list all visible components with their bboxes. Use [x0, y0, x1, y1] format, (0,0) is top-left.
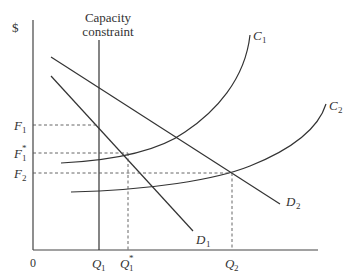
- svg-text:1: 1: [262, 35, 267, 45]
- svg-text:1: 1: [22, 125, 27, 135]
- svg-text:*: *: [22, 143, 27, 153]
- svg-text:1: 1: [129, 263, 134, 273]
- demand-curve-d1: [51, 76, 193, 231]
- x-tick-q1: Q 1: [92, 256, 106, 273]
- svg-text:*: *: [129, 253, 134, 263]
- curve-label-d2: D 2: [285, 194, 301, 211]
- y-tick-f2: F 2: [13, 166, 27, 183]
- svg-text:D: D: [285, 194, 296, 209]
- svg-text:2: 2: [338, 105, 343, 115]
- curve-label-c2: C 2: [329, 98, 343, 115]
- svg-text:1: 1: [101, 263, 106, 273]
- svg-text:1: 1: [206, 239, 211, 249]
- svg-text:2: 2: [296, 201, 301, 211]
- capacity-label-line1: Capacity: [85, 10, 132, 25]
- curve-label-d1: D 1: [195, 232, 211, 249]
- capacity-constraint-diagram: $ Capacity constraint 0 F 1 F 1 * F 2 Q …: [0, 0, 356, 280]
- svg-text:2: 2: [234, 263, 239, 273]
- x-tick-q2: Q 2: [225, 256, 239, 273]
- y-tick-f1-star: F 1 *: [13, 143, 27, 163]
- svg-text:2: 2: [22, 173, 27, 183]
- svg-text:C: C: [253, 28, 262, 43]
- svg-text:D: D: [195, 232, 206, 247]
- cost-curve-c1: [61, 35, 250, 163]
- svg-text:C: C: [329, 98, 338, 113]
- demand-curve-d2: [51, 57, 280, 204]
- x-tick-q1-star: Q 1 *: [120, 253, 134, 273]
- cost-curve-c2: [71, 104, 326, 192]
- curve-label-c1: C 1: [253, 28, 267, 45]
- y-axis-label: $: [12, 20, 19, 35]
- capacity-label-line2: constraint: [82, 24, 134, 39]
- svg-text:1: 1: [22, 153, 27, 163]
- y-tick-f1: F 1: [13, 118, 27, 135]
- origin-label: 0: [30, 256, 36, 270]
